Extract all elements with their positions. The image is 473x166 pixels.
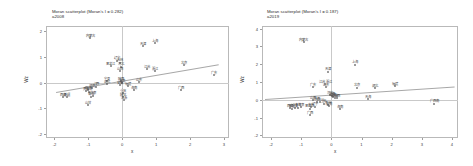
x-tick-label: -2 xyxy=(53,142,57,147)
scatter-point-label: 北京 xyxy=(354,82,360,87)
x-tick-mark xyxy=(301,138,302,140)
scatter-point xyxy=(303,41,305,43)
scatter-point xyxy=(146,68,148,70)
y-tick-label: 0 xyxy=(249,97,258,102)
scatter-point xyxy=(138,81,140,83)
scatter-point xyxy=(367,98,369,100)
x-tick-mark xyxy=(156,138,157,140)
scatter-point-label: 天津 xyxy=(325,66,331,71)
scatter-point-label: 山西 xyxy=(117,66,123,71)
panel-right-title-line2: a2019 xyxy=(267,14,279,19)
scatter-point-label: 江浙 xyxy=(121,94,127,99)
x-tick-mark xyxy=(88,138,89,140)
x-tick-label: 3 xyxy=(421,142,423,147)
x-tick-mark xyxy=(224,138,225,140)
x-tick-label: 4 xyxy=(451,142,453,147)
scatter-point-label: 山东 xyxy=(136,76,142,81)
scatter-point-label: 湖北 xyxy=(104,78,110,83)
scatter-point-label: 广东 xyxy=(211,70,217,75)
scatter-point-label: 浙江 xyxy=(152,65,158,70)
scatter-point-label: 黑龙江 xyxy=(106,61,115,66)
scatter-point-label: 江苏 xyxy=(144,64,150,69)
scatter-point xyxy=(356,87,358,89)
moran-scatterplot-panel-left: Moran scatterplot (Moran's I = 0.282) a2… xyxy=(0,0,237,166)
scatter-point xyxy=(106,83,108,85)
scatter-point xyxy=(394,85,396,87)
scatter-point xyxy=(123,99,125,101)
y-tick-label: 1 xyxy=(33,54,42,59)
x-tick-mark xyxy=(452,138,453,140)
y-tick-label: -1 xyxy=(249,115,258,120)
scatter-point xyxy=(119,70,121,72)
scatter-point-label: 内蒙古 xyxy=(299,36,308,41)
scatter-point xyxy=(133,89,135,91)
scatter-point xyxy=(87,104,89,106)
x-tick-label: 2 xyxy=(189,142,191,147)
x-tick-label: 2 xyxy=(391,142,393,147)
x-tick-label: 3 xyxy=(223,142,225,147)
y-tick-mark xyxy=(260,29,262,30)
scatter-point xyxy=(314,106,316,108)
x-tick-mark xyxy=(122,138,123,140)
scatter-point-label: 新疆 xyxy=(64,91,70,96)
scatter-point-label: 天海 xyxy=(365,93,371,98)
scatter-point xyxy=(183,64,185,66)
scatter-point-label: 上海 xyxy=(152,37,158,42)
x-tick-mark xyxy=(362,138,363,140)
y-tick-label: -1 xyxy=(33,106,42,111)
scatter-point xyxy=(312,86,314,88)
scatter-point-label: 甘肃 xyxy=(90,90,96,95)
scatter-point-label: 内蒙古 xyxy=(86,33,95,38)
scatter-point xyxy=(142,45,144,47)
scatter-point xyxy=(291,108,293,110)
scatter-point xyxy=(154,70,156,72)
y-tick-label: 4 xyxy=(249,26,258,31)
y-tick-label: -2 xyxy=(33,132,42,137)
y-tick-mark xyxy=(260,135,262,136)
scatter-point-label: 黑龙江 xyxy=(305,103,314,108)
y-tick-mark xyxy=(44,31,46,32)
y-tick-label: 1 xyxy=(249,80,258,85)
y-tick-label: 2 xyxy=(249,62,258,67)
scatter-point-label: 广东 xyxy=(310,81,316,86)
scatter-point-label: 广西 xyxy=(307,110,313,115)
scatter-point-label: 海南 xyxy=(131,85,137,90)
x-tick-label: -2 xyxy=(269,142,273,147)
scatter-point-label: 山甘 xyxy=(85,99,91,104)
scatter-point xyxy=(95,86,97,88)
y-tick-mark xyxy=(44,108,46,109)
scatter-point xyxy=(336,97,338,99)
x-tick-mark xyxy=(54,138,55,140)
scatter-point xyxy=(119,84,121,86)
y-tick-mark xyxy=(260,64,262,65)
x-tick-label: 1 xyxy=(155,142,157,147)
moran-scatterplot-panel-right: Moran scatterplot (Moran's I = 0.187) a2… xyxy=(236,0,473,166)
y-tick-label: 3 xyxy=(249,44,258,49)
scatter-point xyxy=(309,114,311,116)
scatter-point xyxy=(289,107,291,109)
y-tick-label: 0 xyxy=(33,80,42,85)
scatter-point xyxy=(339,108,341,110)
scatter-point-label: 江西 xyxy=(334,93,340,98)
x-tick-mark xyxy=(190,138,191,140)
y-tick-label: 2 xyxy=(33,29,42,34)
x-tick-label: 0 xyxy=(330,142,332,147)
scatter-point xyxy=(110,65,112,67)
y-tick-mark xyxy=(260,118,262,119)
panel-right-y-axis-label: Wz xyxy=(240,70,245,90)
scatter-point-label: 西藏 xyxy=(287,102,293,107)
panel-right-x-axis-label: x xyxy=(334,149,336,154)
scatter-point-label: 海南 xyxy=(337,103,343,108)
x-tick-label: 0 xyxy=(121,142,123,147)
x-tick-label: -1 xyxy=(87,142,91,147)
scatter-point-label: 云南 xyxy=(326,100,332,105)
scatter-point-label: 安徽 xyxy=(117,79,123,84)
x-tick-label: 1 xyxy=(360,142,362,147)
x-tick-label: -1 xyxy=(299,142,303,147)
scatter-point-label: 天津 xyxy=(140,40,146,45)
scatter-point xyxy=(327,71,329,73)
y-tick-mark xyxy=(44,57,46,58)
y-tick-label: -2 xyxy=(249,133,258,138)
scatter-point-label: 上海 xyxy=(352,59,358,64)
y-tick-mark xyxy=(260,82,262,83)
